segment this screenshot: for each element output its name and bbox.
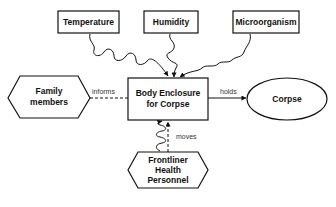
temperature-node: Temperature (58, 11, 119, 33)
frontliner-label-line1: Frontliner (148, 155, 188, 165)
humidity-node: Humidity (144, 11, 198, 33)
humidity-wavy-connector (167, 34, 177, 77)
microorganism-wavy-connector (180, 34, 250, 77)
microorganism-label: Microorganism (236, 17, 297, 27)
diagram-canvas: informs holds moves Temperature Humidity… (0, 0, 336, 207)
body-enclosure-label-line1: Body Enclosure (136, 88, 201, 98)
holds-label: holds (220, 88, 237, 95)
frontliner-label-line3: Personnel (147, 175, 188, 185)
body-enclosure-label-line2: for Corpse (147, 99, 190, 109)
microorganism-node: Microorganism (233, 11, 299, 33)
body-enclosure-node: Body Enclosure for Corpse (128, 78, 208, 120)
frontliner-wavy-connector (156, 121, 165, 151)
moves-label: moves (176, 133, 197, 140)
temperature-wavy-connector (90, 34, 168, 76)
family-members-node: Family members (8, 76, 90, 118)
corpse-label: Corpse (272, 94, 302, 104)
family-members-label-line1: Family (36, 86, 63, 96)
corpse-node: Corpse (247, 78, 327, 120)
frontliner-label-line2: Health (155, 165, 181, 175)
humidity-label: Humidity (153, 17, 190, 27)
informs-label: informs (92, 88, 115, 95)
temperature-label: Temperature (63, 17, 114, 27)
frontliner-node: Frontliner Health Personnel (128, 152, 208, 188)
family-members-label-line2: members (30, 97, 68, 107)
